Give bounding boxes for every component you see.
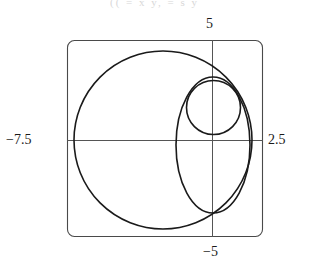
axis-label-top: 5: [206, 17, 213, 31]
axis-label-bottom: −5: [203, 245, 218, 259]
curve-small-circle: [187, 81, 241, 135]
plot-frame: [68, 41, 263, 237]
ghost-header-text: (( = x y, = s y: [110, 0, 300, 10]
axis-label-left: −7.5: [6, 133, 31, 147]
axis-label-right: 2.5: [268, 133, 286, 147]
plot-canvas: [0, 0, 310, 273]
plot-figure: (( = x y, = s y −7.5 2.5 5 −5: [0, 0, 310, 273]
